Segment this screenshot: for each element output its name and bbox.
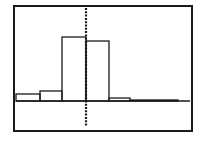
histogram-bar — [62, 37, 86, 101]
histogram-plot — [0, 0, 203, 142]
histogram-bar — [40, 91, 62, 101]
histogram-bar — [86, 41, 109, 101]
histogram-bar — [16, 94, 40, 101]
